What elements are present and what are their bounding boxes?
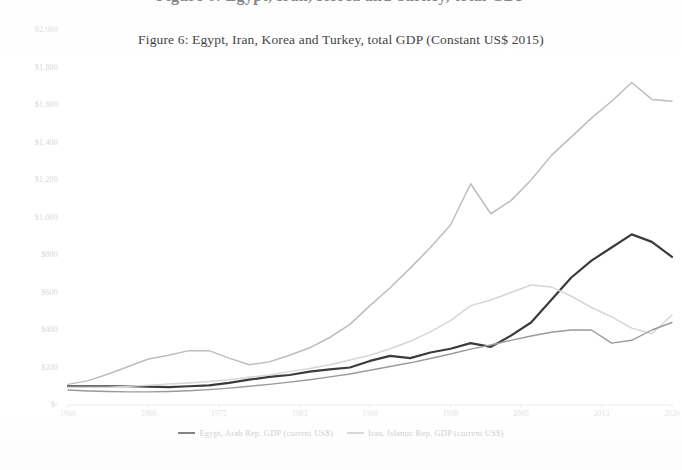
x-tick-label-1: 1968 bbox=[129, 409, 169, 418]
legend-swatch-1 bbox=[347, 432, 364, 434]
y-tick-label-8: $400 bbox=[14, 325, 58, 334]
x-tick-label-3: 1983 bbox=[280, 409, 320, 418]
y-tick-label-4: $1,200 bbox=[14, 175, 58, 184]
y-tick-label-0: $2,000 bbox=[14, 25, 58, 34]
y-tick-label-6: $800 bbox=[14, 250, 58, 259]
y-tick-label-7: $600 bbox=[14, 288, 58, 297]
x-tick-label-8: 2020 bbox=[652, 409, 682, 418]
x-tick-label-7: 2013 bbox=[582, 409, 622, 418]
y-tick-label-2: $1,600 bbox=[14, 100, 58, 109]
chart-plot-area: Egypt, Arab Rep. GDP (current US$)Iran, … bbox=[0, 0, 682, 470]
chart-svg: Egypt, Arab Rep. GDP (current US$)Iran, … bbox=[0, 0, 682, 470]
x-tick-label-0: 1960 bbox=[48, 409, 88, 418]
series-line-2: Korea, Rep. GDP (current US$) bbox=[68, 285, 672, 387]
y-tick-label-1: $1,800 bbox=[14, 63, 58, 72]
legend-item-0[interactable]: Egypt, Arab Rep. GDP (current US$) bbox=[178, 428, 332, 438]
y-tick-label-9: $200 bbox=[14, 363, 58, 372]
legend-swatch-0 bbox=[178, 432, 195, 434]
series-line-1: Iran, Islamic Rep. GDP (current US$) bbox=[68, 83, 672, 385]
x-tick-label-5: 1998 bbox=[431, 409, 471, 418]
legend-label-0: Egypt, Arab Rep. GDP (current US$) bbox=[199, 428, 332, 438]
chart-legend: Egypt, Arab Rep. GDP (current US$)Iran, … bbox=[0, 428, 682, 438]
series-layer: Egypt, Arab Rep. GDP (current US$)Iran, … bbox=[68, 83, 672, 392]
legend-item-1[interactable]: Iran, Islamic Rep. GDP (current US$) bbox=[347, 428, 504, 438]
series-line-0: Egypt, Arab Rep. GDP (current US$) bbox=[68, 234, 672, 387]
y-tick-label-10: $- bbox=[14, 400, 58, 409]
y-tick-label-5: $1,000 bbox=[14, 213, 58, 222]
x-tick-label-2: 1975 bbox=[199, 409, 239, 418]
legend-label-1: Iran, Islamic Rep. GDP (current US$) bbox=[368, 428, 504, 438]
x-tick-label-4: 1990 bbox=[350, 409, 390, 418]
y-tick-label-3: $1,400 bbox=[14, 138, 58, 147]
x-tick-label-6: 2005 bbox=[501, 409, 541, 418]
axis-layer bbox=[68, 405, 672, 408]
